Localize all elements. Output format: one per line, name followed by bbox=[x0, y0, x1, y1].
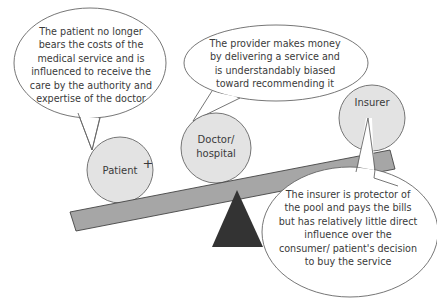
insurer-label: Insurer bbox=[342, 96, 402, 109]
patient-bubble-text: The patient no longer bears the costs of… bbox=[25, 25, 157, 105]
provider-bubble-text: The provider makes money by delivering a… bbox=[205, 37, 345, 91]
seesaw-diagram: The patient no longer bears the costs of… bbox=[0, 0, 437, 298]
doctor-label-line2: hospital bbox=[185, 147, 247, 160]
plus-sign: + bbox=[138, 157, 158, 170]
insurer-bubble-text: The insurer is protector of the pool and… bbox=[278, 188, 418, 268]
doctor-label-line1: Doctor/ bbox=[185, 133, 247, 146]
